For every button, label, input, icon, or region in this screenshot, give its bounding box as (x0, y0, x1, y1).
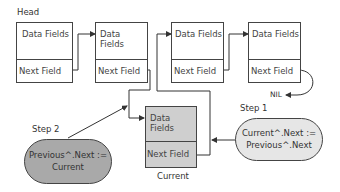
data-fields: Data Fields (17, 23, 72, 60)
step1-label: Step 1 (240, 104, 267, 113)
linked-list-insertion-diagram: Head Data Fields Next Field Data Fields … (0, 0, 340, 192)
next-field: Next Field (96, 59, 147, 82)
data-fields: Data Fields (172, 23, 223, 60)
nil-label: NIL (270, 91, 282, 99)
data-fields: Data Fields (249, 23, 300, 60)
step1-pill: Current^.Next := Previous^.Next (235, 118, 323, 161)
next-field: Next Field (172, 59, 223, 82)
current-node: Data Fields Next Field (145, 106, 197, 168)
current-caption: Current (157, 172, 189, 181)
step1-line2: Previous^.Next (246, 140, 312, 151)
next-field: Next Field (146, 141, 196, 167)
next-field: Next Field (249, 59, 300, 82)
step2-line1: Previous^.Next := (29, 150, 107, 161)
next-field: Next Field (17, 59, 72, 82)
data-fields: Data Fields (96, 23, 147, 60)
step2-line2: Current (52, 162, 84, 173)
data-fields: Data Fields (146, 107, 196, 142)
list-node-4: Data Fields Next Field (248, 22, 301, 83)
head-label: Head (17, 8, 39, 17)
step1-line1: Current^.Next := (242, 128, 316, 139)
list-node-1: Data Fields Next Field (16, 22, 73, 83)
list-node-2: Data Fields Next Field (95, 22, 148, 83)
step2-label: Step 2 (32, 125, 59, 134)
list-node-3: Data Fields Next Field (171, 22, 224, 83)
step2-pill: Previous^.Next := Current (24, 139, 112, 184)
